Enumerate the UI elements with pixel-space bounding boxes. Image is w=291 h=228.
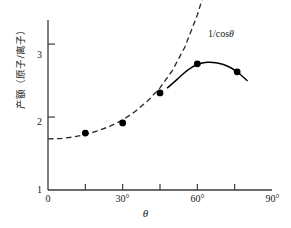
data-point-markers: [82, 60, 241, 136]
x-tick-label-30: 30°: [108, 194, 137, 204]
data-point: [82, 130, 89, 137]
solid-measured-curve: [167, 62, 247, 88]
y-tick-label-3: 3: [28, 50, 42, 60]
x-tick-label-60: 60°: [183, 194, 212, 204]
data-point: [194, 60, 201, 67]
data-point: [157, 90, 164, 97]
x-tick-label-90: 90°: [258, 194, 287, 204]
x-axis-ticks: [85, 184, 234, 190]
cosine-curve-annotation: 1/cosθ: [208, 28, 234, 39]
data-point: [119, 119, 126, 126]
x-tick-label-0: 0: [38, 194, 58, 204]
x-axis-title: θ: [0, 207, 291, 219]
annotation-theta-symbol: θ: [229, 28, 234, 39]
y-axis-title: 产额（原子/离子）: [13, 2, 27, 132]
dashed-cosine-curve: [48, 120, 160, 142]
data-point: [234, 68, 241, 75]
annotation-prefix: 1/cos: [208, 28, 229, 39]
y-tick-label-2: 2: [28, 117, 42, 127]
y-axis-ticks: [48, 44, 55, 117]
chart-figure: 3 2 1 0 30° 60° 90° θ 产额（原子/离子） 1/cosθ: [0, 0, 291, 228]
